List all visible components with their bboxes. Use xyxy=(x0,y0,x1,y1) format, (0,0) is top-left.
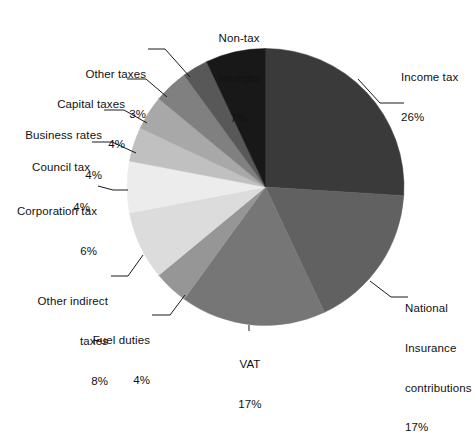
leader-line-national-insurance xyxy=(370,281,408,297)
slice-label-vat: VAT 17% xyxy=(228,332,272,435)
leader-line-fuel-duties xyxy=(152,295,185,315)
leader-line-other-taxes xyxy=(148,49,190,77)
slice-label-other-indirect-taxes-line1: Other indirect xyxy=(20,295,108,308)
slice-label-other-indirect-taxes-line2: taxes xyxy=(20,335,108,348)
slice-label-income-tax: Income tax 26% xyxy=(401,45,458,151)
slice-label-vat-pct: 17% xyxy=(228,398,272,411)
slice-label-non-tax-receipts: Non-tax receipts 7% xyxy=(196,6,282,151)
leader-line-corporation-tax xyxy=(98,186,128,190)
slice-label-other-indirect-taxes-pct: 8% xyxy=(20,375,108,388)
slice-label-national-insurance: National Insurance contributions 17% xyxy=(405,276,472,435)
slice-label-national-insurance-line2: Insurance xyxy=(405,342,472,355)
slice-label-non-tax-receipts-line1: Non-tax xyxy=(196,32,282,45)
slice-label-other-taxes: Other taxes 3% xyxy=(55,42,146,148)
slice-label-non-tax-receipts-pct: 7% xyxy=(196,112,282,125)
slice-label-other-taxes-name: Other taxes xyxy=(55,68,146,81)
slice-label-other-taxes-pct: 3% xyxy=(55,108,146,121)
slice-label-income-tax-name: Income tax xyxy=(401,71,458,84)
slice-label-national-insurance-line3: contributions xyxy=(405,382,472,395)
slice-label-national-insurance-pct: 17% xyxy=(405,421,472,434)
slice-label-non-tax-receipts-line2: receipts xyxy=(196,72,282,85)
slice-label-corporation-tax-pct: 6% xyxy=(5,245,97,258)
pie-slice-income-tax xyxy=(266,49,405,196)
slice-label-vat-name: VAT xyxy=(228,358,272,371)
slice-label-income-tax-pct: 26% xyxy=(401,111,458,124)
slice-label-national-insurance-line1: National xyxy=(405,302,472,315)
leader-line-other-indirect-taxes xyxy=(111,255,143,276)
slice-label-other-indirect-taxes: Other indirect taxes 8% xyxy=(20,269,108,414)
